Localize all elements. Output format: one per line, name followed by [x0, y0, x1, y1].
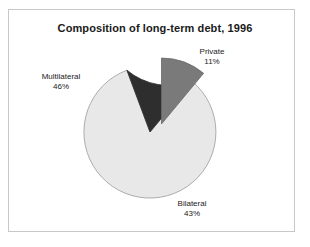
pie-label-multilateral: Multilateral 46% — [32, 72, 90, 92]
pie-label-private-name: Private — [187, 47, 237, 57]
pie-label-bilateral: Bilateral 43% — [165, 199, 219, 219]
pie-chart-graphic — [0, 0, 310, 247]
pie-label-bilateral-value: 43% — [165, 209, 219, 219]
pie-label-multilateral-value: 46% — [32, 82, 90, 92]
pie-label-private-value: 11% — [187, 57, 237, 67]
pie-label-private: Private 11% — [187, 47, 237, 67]
pie-chart-figure: Composition of long-term debt, 1996 Priv… — [0, 0, 310, 247]
pie-label-multilateral-name: Multilateral — [32, 72, 90, 82]
pie-label-bilateral-name: Bilateral — [165, 199, 219, 209]
